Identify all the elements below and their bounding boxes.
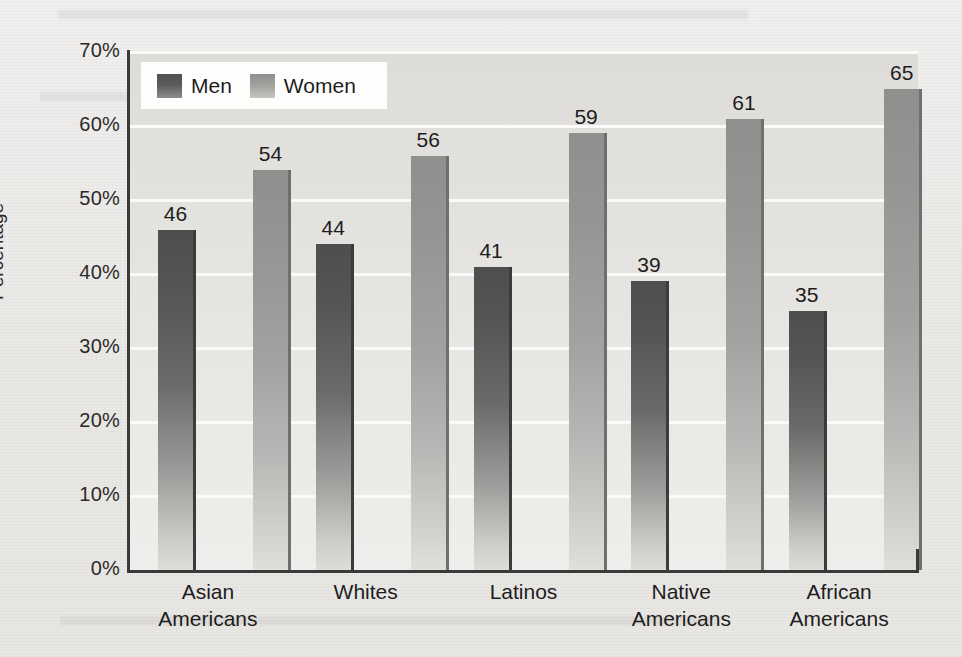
bar-value-label: 39: [637, 253, 660, 277]
y-axis-tick-label: 0%: [36, 557, 120, 580]
x-axis-label-native-americans: NativeAmericans: [602, 578, 760, 632]
gridline: [129, 273, 918, 276]
x-axis-label-latinos: Latinos: [445, 578, 603, 605]
gridline: [129, 51, 918, 54]
bar-women-native-americans: 61: [726, 119, 764, 570]
bar-men-african-americans: 35: [789, 311, 827, 570]
x-axis-label-whites: Whites: [287, 578, 445, 605]
x-axis-label-asian-americans: AsianAmericans: [129, 578, 287, 632]
y-axis-title: Percentage: [0, 203, 8, 300]
bar-value-label: 41: [479, 239, 502, 263]
x-axis-line: [129, 570, 919, 573]
women-swatch-icon: [250, 74, 275, 98]
x-axis-label-line: Americans: [129, 605, 287, 632]
legend-item-women: Women: [250, 74, 356, 98]
chart-legend: Men Women: [141, 62, 387, 109]
x-axis-label-african-americans: AfricanAmericans: [760, 578, 918, 632]
bar-women-african-americans: 65: [884, 89, 922, 570]
y-axis-tick-label: 40%: [36, 261, 120, 284]
bar-men-whites: 44: [316, 244, 354, 570]
x-axis-label-line: Americans: [760, 605, 918, 632]
y-axis-tick-labels: 70%60%50%40%30%20%10%0%: [28, 0, 120, 657]
x-axis-end-tick: [916, 549, 919, 571]
bar-chart-figure: 46544456415939613565 70%60%50%40%30%20%1…: [0, 0, 962, 657]
y-axis-tick-label: 70%: [36, 39, 120, 62]
bar-men-native-americans: 39: [631, 281, 669, 570]
bar-women-asian-americans: 54: [253, 170, 291, 570]
legend-item-men: Men: [157, 74, 232, 98]
bar-women-latinos: 59: [569, 133, 607, 570]
bar-women-whites: 56: [411, 156, 449, 570]
bar-value-label: 65: [890, 61, 913, 85]
x-axis-label-line: Latinos: [445, 578, 603, 605]
y-axis-tick-label: 20%: [36, 409, 120, 432]
plot-area: 46544456415939613565: [129, 52, 918, 570]
x-axis-label-line: Whites: [287, 578, 445, 605]
bar-value-label: 35: [795, 283, 818, 307]
y-axis-tick-label: 60%: [36, 113, 120, 136]
bar-value-label: 44: [322, 216, 345, 240]
bar-men-asian-americans: 46: [158, 230, 196, 570]
bar-value-label: 46: [164, 202, 187, 226]
bar-value-label: 56: [417, 128, 440, 152]
y-axis-tick-label: 10%: [36, 483, 120, 506]
bar-men-latinos: 41: [474, 267, 512, 570]
y-axis-line: [127, 50, 130, 573]
x-axis-label-line: Americans: [602, 605, 760, 632]
legend-label-men: Men: [191, 74, 232, 98]
bar-value-label: 54: [259, 142, 282, 166]
x-axis-label-line: Native: [602, 578, 760, 605]
x-axis-label-line: African: [760, 578, 918, 605]
legend-label-women: Women: [284, 74, 356, 98]
x-axis-label-line: Asian: [129, 578, 287, 605]
y-axis-tick-label: 30%: [36, 335, 120, 358]
gridline: [129, 199, 918, 202]
men-swatch-icon: [157, 74, 182, 98]
y-axis-tick-label: 50%: [36, 187, 120, 210]
gridline: [129, 125, 918, 128]
bar-value-label: 61: [732, 91, 755, 115]
bar-value-label: 59: [574, 105, 597, 129]
